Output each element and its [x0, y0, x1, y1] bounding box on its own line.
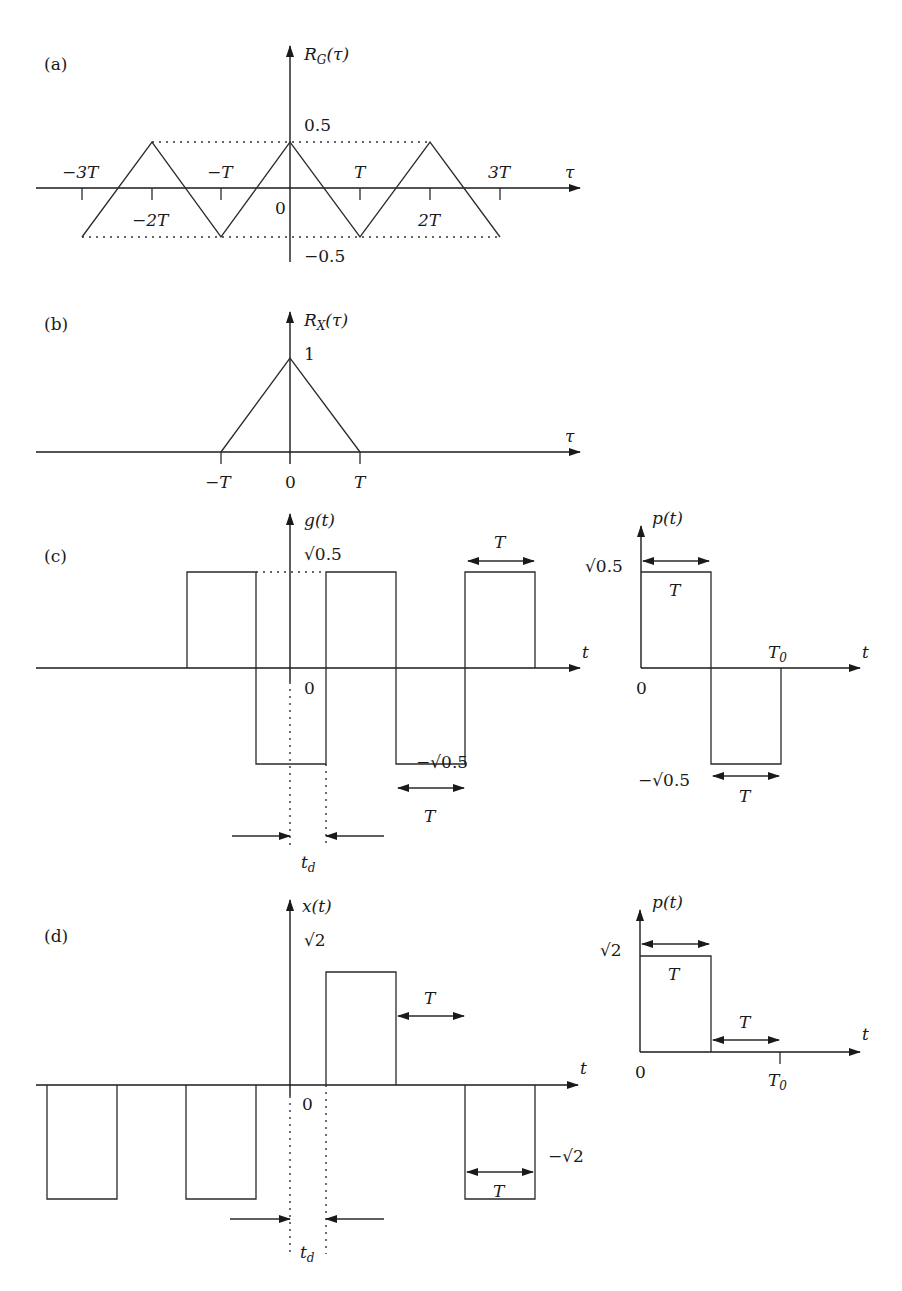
panel-c-pulse: p(t) t √0.5 −√0.5 0 T0 T T: [585, 508, 869, 806]
x-tick: −T: [205, 472, 232, 492]
panel-d-pulse: p(t) t √2 0 T0 T T: [600, 892, 869, 1093]
delay-label: td: [301, 852, 316, 875]
pulse-negative: [47, 1085, 117, 1199]
origin-label: 0: [304, 678, 315, 698]
panel-label: (d): [44, 926, 68, 946]
x-axis-label: t: [862, 642, 869, 662]
signal-figure: (a) RG(τ) τ 0.5 −0.5 −3T −2T −T 0 T 2T 3…: [0, 0, 902, 1291]
y-tick-max: √0.5: [585, 556, 623, 576]
panel-c-signal: (c) g(t) t √0.5 −√0.5 0 T T td: [36, 510, 589, 875]
x-tick: T: [354, 472, 367, 492]
y-tick-min: −√0.5: [416, 752, 468, 772]
y-tick: 1: [304, 344, 315, 364]
x-tick: −2T: [132, 210, 170, 230]
y-tick-min: −0.5: [304, 246, 345, 266]
width-label: T: [739, 786, 752, 806]
period-label: T: [493, 1181, 506, 1201]
period-label: T: [424, 806, 437, 826]
y-axis-label: g(t): [304, 510, 335, 530]
t0-label: T0: [768, 642, 787, 665]
x-axis-label: τ: [565, 162, 575, 182]
pulse-positive: [326, 972, 396, 1085]
x-axis-label: τ: [565, 426, 575, 446]
panel-label: (c): [44, 546, 67, 566]
x-tick: 0: [275, 198, 286, 218]
y-tick-min: −√0.5: [638, 770, 690, 790]
x-axis-label: t: [580, 1058, 587, 1078]
period-label: T: [424, 988, 437, 1008]
y-axis-label: RX(τ): [303, 310, 348, 333]
width-label: T: [669, 580, 682, 600]
x-axis-label: t: [862, 1024, 869, 1044]
x-tick: −T: [207, 162, 234, 182]
width-label: T: [739, 1012, 752, 1032]
pulse-negative: [186, 1085, 256, 1199]
panel-d-signal: (d) x(t) t √2 −√2 0 T T td: [36, 896, 587, 1265]
x-tick: 0: [285, 472, 296, 492]
panel-b: (b) RX(τ) τ 1 −T 0 T: [36, 310, 580, 492]
x-tick: 3T: [488, 162, 512, 182]
y-axis-label: RG(τ): [303, 44, 349, 67]
y-axis-label: p(t): [652, 892, 683, 912]
y-tick-min: −√2: [548, 1146, 584, 1166]
panel-label: (b): [44, 314, 68, 334]
delay-label: td: [300, 1242, 315, 1265]
t0-label: T0: [768, 1070, 787, 1093]
panel-a: (a) RG(τ) τ 0.5 −0.5 −3T −2T −T 0 T 2T 3…: [36, 44, 580, 266]
x-tick: 2T: [417, 210, 442, 230]
x-tick: T: [354, 162, 367, 182]
period-label: T: [494, 532, 507, 552]
y-tick-max: √2: [304, 930, 326, 950]
origin-label: 0: [635, 1062, 646, 1082]
y-tick-max: 0.5: [304, 115, 331, 135]
panel-label: (a): [44, 54, 67, 74]
x-tick: −3T: [62, 162, 100, 182]
origin-label: 0: [302, 1094, 313, 1114]
origin-label: 0: [636, 678, 647, 698]
ticks: [82, 188, 500, 200]
x-axis-label: t: [582, 642, 589, 662]
y-axis-label: x(t): [302, 896, 332, 916]
width-label: T: [668, 964, 681, 984]
y-tick-max: √2: [600, 940, 622, 960]
y-tick-max: √0.5: [304, 544, 342, 564]
y-axis-label: p(t): [652, 508, 683, 528]
